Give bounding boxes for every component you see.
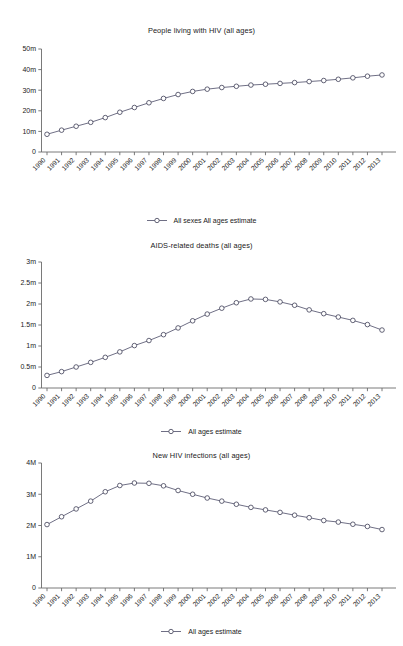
x-tick-label: 2004 (235, 392, 251, 408)
x-tick-label: 1999 (162, 592, 178, 608)
x-tick-label: 2006 (264, 392, 280, 408)
data-point-marker (205, 87, 210, 92)
data-point-marker (380, 328, 385, 333)
data-point-marker (161, 484, 166, 489)
y-tick-label: 30m (22, 87, 36, 94)
x-tick-label: 1999 (162, 156, 178, 172)
x-tick-label: 1991 (46, 592, 62, 608)
data-point-marker (380, 73, 385, 78)
x-tick-label: 1997 (133, 156, 149, 172)
x-tick-label: 2013 (366, 592, 382, 608)
data-point-marker (365, 322, 370, 327)
data-point-marker (249, 297, 254, 302)
legend-marker-icon (161, 627, 181, 636)
x-tick-label: 2004 (235, 156, 251, 172)
legend-marker-icon (147, 216, 167, 225)
chart-legend-0: All sexes All ages estimate (0, 216, 403, 225)
data-point-marker (336, 77, 341, 82)
y-tick-label: 0 (32, 384, 36, 391)
data-point-marker (380, 527, 385, 532)
data-point-marker (321, 78, 326, 83)
chart-panel-people-living-with-hiv: People living with HIV (all ages) 010m20… (0, 0, 403, 235)
x-tick-label: 1992 (60, 156, 76, 172)
data-point-marker (132, 343, 137, 348)
data-point-marker (103, 489, 108, 494)
x-tick-label: 2010 (322, 156, 338, 172)
x-tick-label: 1994 (89, 392, 105, 408)
x-tick-label: 1994 (89, 156, 105, 172)
x-tick-label: 1993 (75, 156, 91, 172)
x-tick-label: 2007 (279, 156, 295, 172)
x-tick-label: 1991 (46, 156, 62, 172)
data-point-marker (321, 518, 326, 523)
y-tick-label: 0 (32, 584, 36, 591)
x-tick-label: 2007 (279, 592, 295, 608)
data-point-marker (176, 92, 181, 97)
data-point-marker (103, 115, 108, 120)
data-point-marker (132, 481, 137, 486)
x-tick-label: 1999 (162, 392, 178, 408)
data-point-marker (74, 507, 79, 512)
y-tick-label: 3M (26, 491, 36, 498)
data-point-marker (45, 522, 50, 527)
x-tick-label: 1997 (133, 592, 149, 608)
x-tick-label: 1992 (60, 392, 76, 408)
data-point-marker (365, 524, 370, 529)
legend-marker-icon (161, 427, 181, 436)
data-point-marker (59, 128, 64, 133)
x-tick-label: 1990 (31, 392, 47, 408)
x-tick-label: 1990 (31, 592, 47, 608)
y-tick-label: 4M (26, 459, 36, 466)
data-point-marker (292, 303, 297, 308)
data-point-marker (336, 520, 341, 525)
data-point-marker (205, 496, 210, 501)
data-point-marker (118, 483, 123, 488)
data-point-marker (249, 505, 254, 510)
data-point-marker (103, 355, 108, 360)
y-tick-label: 1M (26, 553, 36, 560)
x-tick-label: 2003 (220, 156, 236, 172)
x-tick-label: 2004 (235, 592, 251, 608)
x-tick-label: 2001 (191, 156, 207, 172)
data-point-marker (190, 319, 195, 324)
data-point-marker (45, 132, 50, 137)
x-tick-label: 2005 (250, 392, 266, 408)
x-tick-label: 2006 (264, 156, 280, 172)
x-tick-label: 1998 (148, 392, 164, 408)
data-point-marker (74, 365, 79, 370)
x-tick-label: 2005 (250, 156, 266, 172)
data-point-marker (234, 300, 239, 305)
chart-legend-2: All ages estimate (0, 627, 403, 636)
y-tick-label: 2.5m (20, 279, 36, 286)
data-point-marker (88, 499, 93, 504)
x-tick-label: 2002 (206, 392, 222, 408)
data-point-marker (161, 332, 166, 337)
x-tick-label: 2007 (279, 392, 295, 408)
data-point-marker (278, 300, 283, 305)
data-point-marker (88, 360, 93, 365)
x-tick-label: 2003 (220, 392, 236, 408)
x-tick-label: 1995 (104, 156, 120, 172)
data-point-marker (59, 514, 64, 519)
data-point-marker (263, 297, 268, 302)
x-tick-label: 2005 (250, 592, 266, 608)
x-tick-label: 2008 (293, 392, 309, 408)
data-point-marker (351, 522, 356, 527)
data-point-marker (321, 311, 326, 316)
data-point-marker (351, 318, 356, 323)
data-point-marker (118, 110, 123, 115)
x-tick-label: 1995 (104, 592, 120, 608)
legend-label-2: All ages estimate (188, 627, 241, 636)
data-point-marker (307, 515, 312, 520)
data-point-marker (219, 499, 224, 504)
data-point-marker (59, 369, 64, 374)
x-tick-label: 2011 (337, 392, 352, 407)
chart-panel-new-hiv-infections: New HIV infections (all ages) 01M2M3M4M1… (0, 445, 403, 646)
x-tick-label: 2008 (293, 156, 309, 172)
x-tick-label: 2010 (322, 592, 338, 608)
x-tick-label: 1992 (60, 592, 76, 608)
x-tick-label: 2001 (191, 392, 207, 408)
x-tick-label: 2011 (337, 592, 352, 607)
legend-label-0: All sexes All ages estimate (174, 216, 257, 225)
data-point-marker (176, 326, 181, 331)
